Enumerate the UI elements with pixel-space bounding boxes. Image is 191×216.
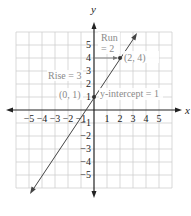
coordinate-plane: x y −5 −4 −3 −2 −1 1 2 3 4 5 5 4 3 2 1 −…: [0, 0, 191, 216]
line-arrow-up-icon: [131, 33, 137, 41]
y-tick: −3: [80, 143, 91, 154]
point-b-label: (2, 4): [124, 52, 146, 64]
y-tick: −5: [80, 169, 91, 180]
x-axis-label: x: [184, 104, 190, 116]
run-label: Run: [101, 32, 118, 43]
x-tick-labels: −5 −4 −3 −2 −1 1 2 3 4 5: [24, 113, 162, 124]
run-value: = 2: [101, 43, 114, 54]
y-tick: 4: [86, 52, 91, 63]
x-tick: −4: [37, 113, 48, 124]
y-intercept-label: y-intercept = 1: [100, 88, 159, 99]
y-tick: 5: [86, 39, 91, 50]
x-tick: 1: [105, 113, 110, 124]
x-tick: 5: [157, 113, 162, 124]
y-tick: −2: [80, 130, 91, 141]
y-tick: −4: [80, 156, 91, 167]
run-arrow: [94, 56, 118, 60]
x-tick: −3: [50, 113, 61, 124]
x-tick: 3: [131, 113, 136, 124]
x-axis-right-arrow-icon: [175, 108, 182, 113]
x-tick: 4: [144, 113, 149, 124]
x-axis-left-arrow-icon: [6, 108, 13, 113]
point-0-1: [92, 95, 96, 99]
point-a-label: (0, 1): [59, 89, 81, 101]
y-axis-label: y: [90, 3, 96, 15]
y-tick: 2: [86, 78, 91, 89]
y-axis-down-arrow-icon: [92, 191, 97, 198]
y-tick: 3: [86, 65, 91, 76]
x-tick: 2: [118, 113, 123, 124]
rise-label: Rise = 3: [48, 70, 81, 81]
y-tick: 1: [86, 91, 91, 102]
x-tick: −5: [24, 113, 35, 124]
y-tick: −1: [80, 117, 91, 128]
x-tick: −2: [63, 113, 74, 124]
point-2-4: [118, 56, 122, 60]
run-arrowhead-icon: [113, 56, 118, 60]
y-axis-up-arrow-icon: [92, 22, 97, 29]
